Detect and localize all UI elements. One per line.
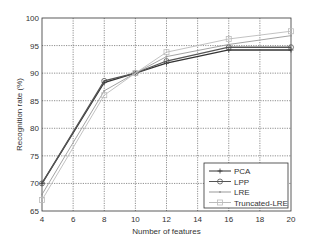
marker-dot xyxy=(219,191,221,193)
x-tick-label: 16 xyxy=(224,215,233,224)
y-tick-label: 85 xyxy=(30,97,39,106)
y-tick-label: 95 xyxy=(30,42,39,51)
marker-dot xyxy=(290,35,292,37)
marker-dot xyxy=(166,56,168,58)
legend-label: LRE xyxy=(234,188,250,197)
legend-label: LPP xyxy=(234,178,249,187)
x-tick-label: 8 xyxy=(102,215,107,224)
y-tick-label: 100 xyxy=(26,14,40,23)
marker-dot xyxy=(41,193,43,195)
x-tick-label: 10 xyxy=(131,215,140,224)
x-tick-label: 6 xyxy=(71,215,76,224)
line-chart: 46810121416182065707580859095100Number o… xyxy=(0,0,310,244)
x-axis-label: Number of features xyxy=(132,227,200,236)
y-tick-label: 75 xyxy=(30,152,39,161)
y-tick-label: 65 xyxy=(30,207,39,216)
y-axis-label: Recognition rate (%) xyxy=(15,78,24,151)
legend-label: PCA xyxy=(234,167,251,176)
x-tick-label: 18 xyxy=(255,215,264,224)
x-tick-label: 4 xyxy=(40,215,45,224)
marker-dot xyxy=(228,43,230,45)
y-tick-label: 90 xyxy=(30,69,39,78)
x-tick-label: 12 xyxy=(162,215,171,224)
legend-label: Truncated-LRE xyxy=(234,199,288,208)
y-tick-label: 70 xyxy=(30,179,39,188)
marker-dot xyxy=(103,90,105,92)
x-tick-label: 14 xyxy=(193,215,202,224)
x-tick-label: 20 xyxy=(287,215,296,224)
y-tick-label: 80 xyxy=(30,124,39,133)
